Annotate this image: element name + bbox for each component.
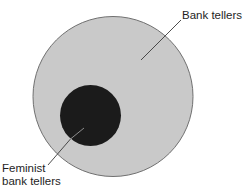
bank-tellers-label: Bank tellers (182, 9, 242, 22)
feminist-label-line2: bank tellers (2, 175, 61, 188)
feminist-bank-tellers-circle (60, 85, 121, 146)
feminist-label-line1: Feminist (2, 162, 45, 175)
